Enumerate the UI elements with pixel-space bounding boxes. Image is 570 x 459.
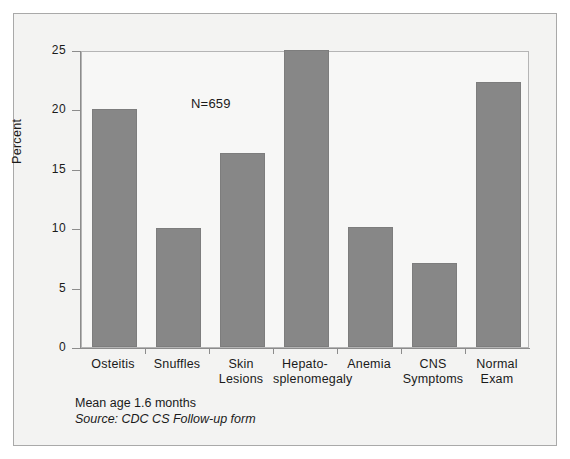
bar [220,153,265,347]
x-tick [337,349,338,354]
x-axis-category-label-line: Hepato- [273,357,337,372]
figure-panel: 0510152025 Percent OsteitisSnufflesSkinL… [13,13,557,446]
x-tick [465,349,466,354]
bar [284,50,329,347]
bar [476,82,521,347]
x-axis-category-label-line: Osteitis [81,357,145,372]
x-axis-category-label-line: Lesions [209,372,273,387]
y-tick: 15 [72,170,81,171]
y-tick-label: 5 [59,281,66,295]
y-tick: 20 [72,110,81,111]
footnote-source: Source: CDC CS Follow-up form [75,411,256,427]
y-tick: 10 [72,229,81,230]
y-tick-label: 15 [52,162,66,176]
x-axis-category-label-line: Skin [209,357,273,372]
x-tick [145,349,146,354]
y-tick-label: 0 [59,340,66,354]
sample-size-annotation: N=659 [191,96,231,111]
y-tick-label: 20 [52,102,66,116]
bar [412,263,457,347]
x-axis-category-label: Hepato-splenomegaly [273,357,337,387]
x-tick [273,349,274,354]
y-tick-label: 10 [52,221,66,235]
y-tick: 25 [72,51,81,52]
x-axis-category-label-line: CNS [401,357,465,372]
x-axis-category-label-line: Normal [465,357,529,372]
x-axis-category-label: NormalExam [465,357,529,387]
x-tick [209,349,210,354]
x-axis-category-label-line: splenomegaly [273,372,337,387]
x-axis-category-label-line: Anemia [337,357,401,372]
footnote-block: Mean age 1.6 months Source: CDC CS Follo… [75,395,256,427]
bar [92,109,137,347]
x-axis-category-label-line: Snuffles [145,357,209,372]
bar-series [82,52,528,347]
x-axis-category-label: SkinLesions [209,357,273,387]
x-axis-category-label: Osteitis [81,357,145,372]
x-axis-category-label: Anemia [337,357,401,372]
y-tick-label: 25 [52,43,66,57]
x-tick [401,349,402,354]
x-axis-category-label: Snuffles [145,357,209,372]
plot-area [81,51,529,348]
bar [348,227,393,347]
x-axis-line [72,348,530,349]
footnote-mean-age: Mean age 1.6 months [75,395,256,411]
y-axis-title: Percent [10,119,24,164]
bar [156,228,201,347]
x-axis-category-label-line: Symptoms [401,372,465,387]
x-axis-category-label: CNSSymptoms [401,357,465,387]
x-axis-category-label-line: Exam [465,372,529,387]
y-tick: 5 [72,289,81,290]
